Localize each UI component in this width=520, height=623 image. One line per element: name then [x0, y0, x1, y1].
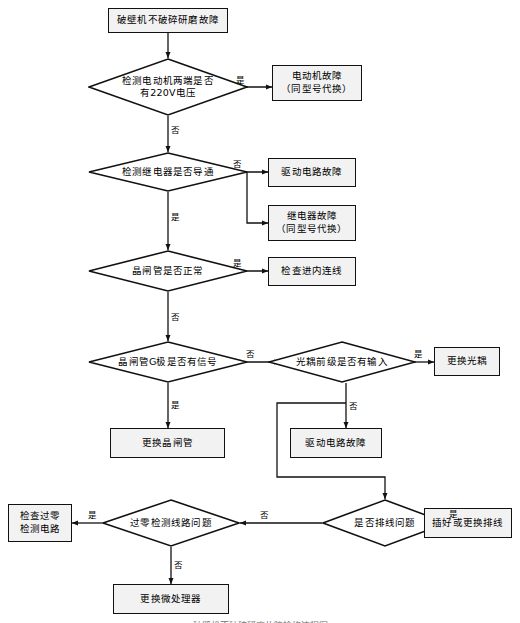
edge-label-relay-no: 否: [233, 160, 242, 169]
node-start: 破壁机不破碎研磨故障: [108, 8, 228, 33]
edge-label-ribbon-no: 否: [260, 511, 269, 520]
node-detect-motor-voltage-label: 检测电动机两端是否 有220V电压: [122, 75, 214, 100]
edge-label-gate-no: 否: [246, 350, 255, 359]
node-ribbon-cable-issue-label: 是否排线问题: [354, 517, 415, 529]
node-replace-optocoupler-label: 更换光耦: [447, 355, 488, 368]
figure-caption: 破壁机不破碎研磨故障检修流程图: [0, 619, 520, 623]
edge-label-ribbon-yes: 是: [449, 510, 458, 519]
node-check-zero-cross-circuit: 检查过零 检测电路: [8, 504, 72, 542]
edge-label-opto-no: 否: [349, 402, 358, 411]
node-replace-microprocessor-label: 更换微处理器: [140, 593, 201, 606]
node-drive-circuit-fault-1: 驱动电路故障: [268, 158, 356, 187]
node-start-label: 破壁机不破碎研磨故障: [117, 14, 219, 27]
label-line-1: 检测电动机两端是否: [122, 75, 214, 86]
node-opto-input-label: 光耦前级是否有输入: [296, 356, 388, 368]
label-line-1: 电动机故障: [281, 70, 352, 83]
node-check-inner-wiring-label: 检查进内连线: [281, 265, 342, 278]
node-replace-microprocessor: 更换微处理器: [113, 584, 229, 614]
edge-label-opto-yes: 是: [414, 350, 423, 359]
label-line-2: （同型号代换）: [281, 83, 352, 96]
node-motor-fault: 电动机故障 （同型号代换）: [272, 65, 362, 101]
edge-label-relay-yes: 是: [171, 213, 180, 222]
node-scr-gate-signal: 晶闸管G极是否有信号: [88, 341, 248, 383]
label-line-2: （同型号代换）: [276, 223, 347, 236]
node-replace-ribbon-cable: 插好或更换排线: [424, 508, 512, 538]
node-zero-cross-issue-label: 过零检测线路问题: [130, 517, 212, 529]
edge-label-zero-yes: 是: [88, 511, 97, 520]
node-scr-normal-label: 晶闸管是否正常: [132, 265, 203, 277]
node-opto-input: 光耦前级是否有输入: [268, 341, 416, 383]
node-replace-ribbon-cable-label: 插好或更换排线: [432, 517, 503, 530]
edge-label-zero-no: 否: [174, 561, 183, 570]
edge-label-scr-no: 否: [171, 313, 180, 322]
node-motor-fault-label: 电动机故障 （同型号代换）: [281, 70, 352, 95]
node-scr-normal: 晶闸管是否正常: [88, 250, 248, 292]
edge-label-scr-yes: 是: [233, 259, 242, 268]
node-detect-motor-voltage: 检测电动机两端是否 有220V电压: [88, 58, 248, 116]
node-zero-cross-issue: 过零检测线路问题: [102, 499, 240, 547]
node-replace-scr-label: 更换晶闸管: [142, 437, 193, 450]
edge-label-motor-yes: 是: [236, 76, 245, 85]
node-check-zero-cross-circuit-label: 检查过零 检测电路: [20, 510, 61, 535]
node-drive-circuit-fault-1-label: 驱动电路故障: [281, 166, 342, 179]
node-relay-fault-label: 继电器故障 （同型号代换）: [276, 210, 347, 235]
label-line-1: 继电器故障: [276, 210, 347, 223]
node-detect-relay-label: 检测继电器是否导通: [122, 166, 214, 178]
node-scr-gate-signal-label: 晶闸管G极是否有信号: [118, 356, 217, 368]
flowchart-canvas: 破壁机不破碎研磨故障 检测电动机两端是否 有220V电压 电动机故障 （同型号代…: [0, 0, 520, 623]
label-line-1: 检查过零: [20, 510, 61, 523]
node-detect-relay: 检测继电器是否导通: [88, 152, 248, 192]
node-check-inner-wiring: 检查进内连线: [268, 257, 356, 286]
label-line-2: 有220V电压: [140, 87, 196, 98]
node-drive-circuit-fault-2: 驱动电路故障: [290, 428, 382, 458]
node-relay-fault: 继电器故障 （同型号代换）: [268, 205, 356, 241]
label-line-2: 检测电路: [20, 523, 61, 536]
edge-label-motor-no: 否: [171, 126, 180, 135]
edge-label-gate-yes: 是: [171, 401, 180, 410]
node-drive-circuit-fault-2-label: 驱动电路故障: [305, 437, 366, 450]
node-replace-scr: 更换晶闸管: [110, 428, 225, 458]
node-replace-optocoupler: 更换光耦: [434, 347, 500, 376]
